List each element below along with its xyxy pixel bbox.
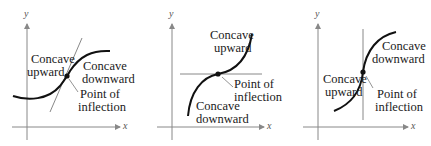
x-axis-label: x — [411, 120, 415, 131]
point-of-inflection-label-line2: inflection — [78, 101, 126, 114]
leader-line — [366, 76, 373, 88]
inflection-point — [64, 73, 69, 78]
concave-upward-label-line2: upward — [325, 86, 363, 99]
leader-line — [222, 77, 233, 87]
y-axis-label: y — [24, 8, 28, 19]
y-axis-label: y — [315, 8, 319, 19]
concave-downward-label-line2: downward — [196, 113, 249, 126]
x-axis-label: x — [123, 120, 127, 131]
concave-downward-label-line2: downward — [82, 73, 135, 86]
x-axis-label: x — [267, 120, 271, 131]
concave-upward-label-line2: upward — [27, 66, 65, 79]
concave-downward-label-line2: downward — [372, 53, 425, 66]
leader-line — [69, 79, 78, 92]
point-of-inflection-label-line2: inflection — [234, 91, 282, 104]
concave-upward-label-line2: upward — [214, 42, 252, 55]
inflection-point — [215, 71, 220, 76]
point-of-inflection-label-line2: inflection — [375, 101, 423, 114]
y-axis-label: y — [169, 8, 173, 19]
